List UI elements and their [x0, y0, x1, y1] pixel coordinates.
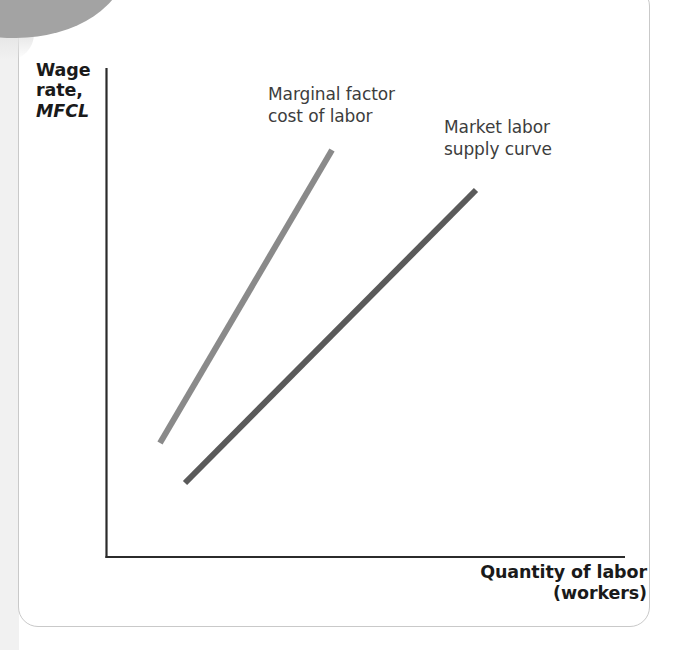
figure-page: Wage rate, MFCL Marginal factor cost of … [0, 0, 687, 650]
y-axis-label-line3: MFCL [36, 101, 102, 121]
supply-curve-label-line2: supply curve [444, 139, 552, 161]
supply-curve-label: Market labor supply curve [444, 117, 552, 161]
mfc-curve-label: Marginal factor cost of labor [268, 84, 395, 128]
mfc-curve-label-line2: cost of labor [268, 106, 395, 128]
mfc-curve [160, 150, 332, 443]
supply-curve-label-line1: Market labor [444, 117, 552, 139]
y-axis-label: Wage rate, MFCL [36, 60, 102, 121]
x-axis-label-line1: Quantity of labor [480, 562, 647, 583]
y-axis-label-line1: Wage [36, 60, 102, 80]
mfc-curve-label-line1: Marginal factor [268, 84, 395, 106]
market-labor-supply-curve [185, 190, 476, 483]
x-axis-label: Quantity of labor (workers) [480, 562, 647, 604]
y-axis-label-line2: rate, [36, 80, 102, 100]
x-axis-label-line2: (workers) [480, 583, 647, 604]
